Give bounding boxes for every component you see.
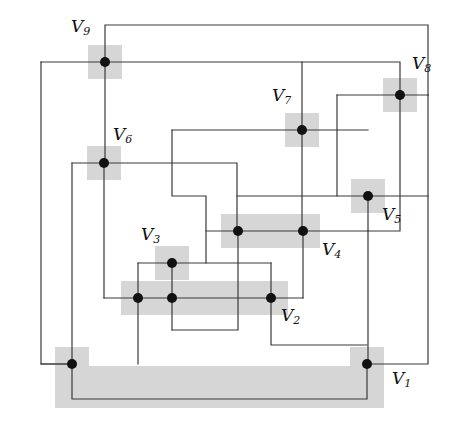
- vertex-label-base: V: [281, 305, 293, 325]
- vertex-label-subscript: 2: [293, 314, 300, 327]
- graph-node-v5[interactable]: [363, 191, 373, 201]
- graph-node-v6[interactable]: [99, 158, 109, 168]
- edge-v7-box-left: [172, 130, 206, 263]
- vertex-label-subscript: 9: [83, 25, 90, 38]
- vertex-label-subscript: 8: [424, 62, 431, 75]
- vertex-label-subscript: 3: [153, 233, 160, 246]
- graph-node-v7[interactable]: [297, 125, 307, 135]
- graph-node[interactable]: [167, 293, 177, 303]
- vertex-label-v3: V3: [141, 226, 160, 243]
- vertex-label-base: V: [322, 239, 334, 259]
- vertex-label-v6: V6: [113, 126, 132, 143]
- graph-figure: V9V8V7V6V5V3V4V2V1: [0, 0, 457, 430]
- graph-node-v4[interactable]: [298, 226, 308, 236]
- graph-node-v1[interactable]: [362, 359, 372, 369]
- highlight-band: [55, 366, 384, 408]
- vertex-label-v9: V9: [71, 18, 90, 35]
- vertex-label-v4: V4: [322, 241, 341, 258]
- vertex-label-base: V: [392, 368, 404, 388]
- vertex-label-subscript: 5: [394, 213, 401, 226]
- vertex-label-v7: V7: [272, 87, 291, 104]
- vertex-label-subscript: 4: [334, 248, 341, 261]
- vertex-label-base: V: [141, 224, 153, 244]
- graph-node-v3[interactable]: [167, 258, 177, 268]
- graph-node-v2[interactable]: [266, 293, 276, 303]
- edge-right-outer: [367, 95, 428, 364]
- vertex-label-v8: V8: [412, 55, 431, 72]
- vertex-label-v5: V5: [382, 206, 401, 223]
- vertex-label-base: V: [272, 85, 284, 105]
- vertex-label-v1: V1: [392, 370, 411, 387]
- vertex-label-v2: V2: [281, 307, 300, 324]
- vertex-label-base: V: [71, 16, 83, 36]
- vertex-label-subscript: 1: [404, 377, 411, 390]
- graph-node[interactable]: [67, 359, 77, 369]
- edge-left-outer: [41, 62, 72, 364]
- vertex-label-subscript: 7: [284, 94, 291, 107]
- graph-node[interactable]: [133, 293, 143, 303]
- vertex-label-base: V: [382, 204, 394, 224]
- vertex-label-base: V: [412, 53, 424, 73]
- vertex-label-base: V: [113, 124, 125, 144]
- vertex-label-subscript: 6: [125, 133, 132, 146]
- graph-node-v9[interactable]: [100, 57, 110, 67]
- graph-node-v8[interactable]: [395, 90, 405, 100]
- graph-node[interactable]: [233, 226, 243, 236]
- edge-v9-top-to-v8: [105, 25, 428, 95]
